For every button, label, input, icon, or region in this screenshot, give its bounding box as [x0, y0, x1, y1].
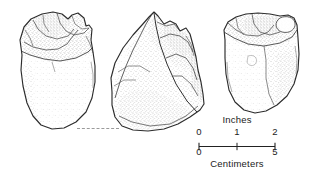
artifact-middle-view — [106, 8, 210, 136]
scale-unit-label-inches: Inches — [196, 114, 278, 125]
scale-tick-labels-centimeters: 0 5 — [196, 146, 278, 157]
scale-tick-labels-inches: 0 1 2 — [196, 126, 278, 137]
inch-tick-label-2: 2 — [272, 126, 277, 137]
baseline-dashed-connector — [77, 128, 119, 129]
cm-tick-label-5: 5 — [272, 146, 277, 157]
inch-tick-label-0: 0 — [196, 126, 201, 137]
inch-tick-label-1: 1 — [234, 126, 239, 137]
cm-tick-label-0: 0 — [196, 146, 201, 157]
artifact-left-view — [14, 8, 104, 136]
figure-page: Inches 0 1 2 0 5 Centimeters — [0, 0, 322, 180]
scale-bar: Inches 0 1 2 0 5 Centimeters — [196, 114, 278, 178]
scale-unit-label-centimeters: Centimeters — [196, 158, 278, 169]
scale-bar-line-group — [196, 137, 278, 146]
artifact-right-view — [220, 8, 304, 120]
